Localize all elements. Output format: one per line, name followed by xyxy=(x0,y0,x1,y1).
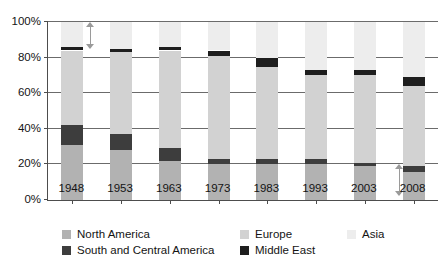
bar-segment-middle-east[interactable] xyxy=(403,77,425,86)
bar-segment-middle-east[interactable] xyxy=(159,47,181,51)
bar-segment-asia[interactable] xyxy=(403,22,425,77)
arrow-head-up-icon xyxy=(86,22,94,27)
x-axis-tick-label-1983: 1983 xyxy=(238,182,294,194)
bar-segment-middle-east[interactable] xyxy=(354,70,376,75)
y-axis-tick-label: 80% xyxy=(0,52,41,64)
x-axis-tick xyxy=(72,200,73,204)
x-axis-tick-label-2008: 2008 xyxy=(385,182,441,194)
bar-segment-middle-east[interactable] xyxy=(256,58,278,67)
bar-segment-south-and-central-america[interactable] xyxy=(305,159,327,164)
bar-segment-south-and-central-america[interactable] xyxy=(354,163,376,167)
y-axis-tick-label: 20% xyxy=(0,158,41,170)
x-axis-tick xyxy=(365,200,366,204)
bar-segment-asia[interactable] xyxy=(305,22,327,70)
x-axis-tick-label-1953: 1953 xyxy=(92,182,148,194)
legend-swatch-middle-east xyxy=(240,246,249,255)
x-axis-tick-label-1993: 1993 xyxy=(287,182,343,194)
chart-legend: North AmericaEuropeAsiaSouth and Central… xyxy=(62,228,422,262)
bar-segment-south-and-central-america[interactable] xyxy=(61,125,83,145)
legend-label: Asia xyxy=(362,228,384,240)
arrow-head-up-icon xyxy=(395,164,403,169)
bar-segment-asia[interactable] xyxy=(110,22,132,49)
bar-segment-south-and-central-america[interactable] xyxy=(208,159,230,164)
x-axis-tick xyxy=(219,200,220,204)
bar-segment-europe[interactable] xyxy=(208,56,230,159)
x-axis-tick xyxy=(316,200,317,204)
plot-area xyxy=(47,22,438,201)
legend-label: North America xyxy=(77,228,150,240)
gridline xyxy=(48,128,438,129)
legend-label: Europe xyxy=(255,228,292,240)
stacked-bar-chart: 0%20%40%60%80%100% 194819531963197319831… xyxy=(0,0,448,272)
y-axis-tick xyxy=(44,92,48,93)
bar-segment-south-and-central-america[interactable] xyxy=(256,159,278,164)
x-axis-tick-label-1963: 1963 xyxy=(141,182,197,194)
arrow-shaft xyxy=(90,26,91,45)
bar-segment-middle-east[interactable] xyxy=(208,51,230,56)
bar-segment-asia[interactable] xyxy=(256,22,278,58)
y-axis-tick xyxy=(44,128,48,129)
asia-share-arrow-1948 xyxy=(85,22,96,49)
gridline xyxy=(48,92,438,93)
bar-segment-europe[interactable] xyxy=(61,51,83,126)
x-axis-tick xyxy=(170,200,171,204)
y-axis-tick-label: 100% xyxy=(0,16,41,28)
bar-segment-europe[interactable] xyxy=(110,52,132,134)
y-axis-tick xyxy=(44,199,48,200)
y-axis-tick-label: 40% xyxy=(0,123,41,135)
legend-label: South and Central America xyxy=(77,244,214,256)
bar-segment-asia[interactable] xyxy=(61,22,83,47)
bar-segment-europe[interactable] xyxy=(256,67,278,160)
bar-segment-middle-east[interactable] xyxy=(305,70,327,75)
legend-swatch-north-america xyxy=(62,230,71,239)
bar-segment-europe[interactable] xyxy=(159,51,181,149)
x-axis-tick-label-1973: 1973 xyxy=(190,182,246,194)
legend-item-europe[interactable]: Europe xyxy=(240,228,292,240)
legend-item-north-america[interactable]: North America xyxy=(62,228,150,240)
y-axis-tick xyxy=(44,57,48,58)
x-axis-tick xyxy=(267,200,268,204)
bar-segment-middle-east[interactable] xyxy=(61,47,83,51)
bar-segment-south-and-central-america[interactable] xyxy=(403,166,425,171)
y-axis-tick xyxy=(44,163,48,164)
bar-segment-europe[interactable] xyxy=(403,86,425,166)
y-axis-tick-label: 60% xyxy=(0,87,41,99)
bar-segment-asia[interactable] xyxy=(208,22,230,50)
bar-segment-south-and-central-america[interactable] xyxy=(110,134,132,150)
bar-segment-europe[interactable] xyxy=(354,75,376,162)
x-axis-tick-label-1948: 1948 xyxy=(43,182,99,194)
legend-swatch-south-and-central-america xyxy=(62,246,71,255)
legend-label: Middle East xyxy=(255,244,315,256)
gridline xyxy=(48,21,438,22)
legend-item-middle-east[interactable]: Middle East xyxy=(240,244,315,256)
bar-segment-middle-east[interactable] xyxy=(110,49,132,53)
bar-segment-south-and-central-america[interactable] xyxy=(159,148,181,160)
bar-segment-europe[interactable] xyxy=(305,75,327,159)
y-axis-tick xyxy=(44,21,48,22)
gridline xyxy=(48,163,438,164)
bar-segment-asia[interactable] xyxy=(159,22,181,47)
bar-segment-north-america[interactable] xyxy=(159,161,181,200)
gridline xyxy=(48,57,438,58)
legend-swatch-europe xyxy=(240,230,249,239)
legend-item-asia[interactable]: Asia xyxy=(347,228,384,240)
x-axis-tick-label-2003: 2003 xyxy=(336,182,392,194)
arrow-head-down-icon xyxy=(86,44,94,49)
legend-item-south-and-central-america[interactable]: South and Central America xyxy=(62,244,214,256)
x-axis-tick xyxy=(414,200,415,204)
y-axis-tick-label: 0% xyxy=(0,194,41,206)
bar-segment-asia[interactable] xyxy=(354,22,376,70)
legend-swatch-asia xyxy=(347,230,356,239)
x-axis-tick xyxy=(121,200,122,204)
